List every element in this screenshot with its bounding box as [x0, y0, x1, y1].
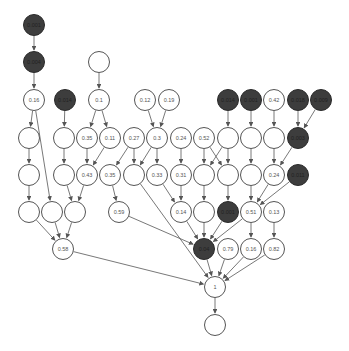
- edge-arrow: [140, 147, 151, 164]
- edge-arrow: [55, 223, 59, 238]
- graph-node: 0.018: [287, 89, 309, 111]
- graph-node: 0.43: [76, 164, 98, 186]
- graph-node: 0.3: [146, 127, 168, 149]
- edge-arrow: [161, 110, 166, 126]
- graph-node: [64, 201, 86, 223]
- graph-node: 0.59: [108, 201, 130, 223]
- graph-node: 0.51: [240, 201, 262, 223]
- edge-arrow: [163, 184, 174, 202]
- graph-node: 0.004: [23, 51, 45, 73]
- graph-node: 0.58: [52, 238, 74, 260]
- graph-node: [217, 127, 239, 149]
- graph-node: 0.001: [240, 89, 262, 111]
- graph-node: 0.014: [54, 89, 76, 111]
- graph-node: 0.24: [170, 127, 192, 149]
- graph-node: 0.27: [123, 127, 145, 149]
- graph-node: 0.42: [263, 89, 285, 111]
- graph-node: 0.35: [99, 164, 121, 186]
- graph-node: [41, 201, 63, 223]
- edge-arrow: [281, 147, 292, 165]
- graph-node: [240, 164, 262, 186]
- graph-node: 0.04: [193, 238, 215, 260]
- graph-node: 0.52: [193, 127, 215, 149]
- graph-diagram: 0.0010.0040.160.0140.10.120.190.0140.001…: [0, 0, 349, 351]
- edge-arrow: [140, 184, 208, 277]
- graph-node: 0.12: [134, 89, 156, 111]
- graph-node: 0.33: [146, 164, 168, 186]
- graph-node: [240, 127, 262, 149]
- edge-arrow: [74, 252, 204, 284]
- graph-node: [204, 314, 226, 336]
- edge-arrow: [31, 111, 33, 126]
- graph-node: 0.14: [170, 201, 192, 223]
- graph-node: 0.001: [23, 14, 45, 36]
- graph-node: [88, 51, 110, 73]
- graph-node: 1: [204, 276, 226, 298]
- edge-arrow: [36, 220, 54, 240]
- edge-arrow: [91, 110, 96, 126]
- edge-arrow: [207, 260, 212, 276]
- edge-arrow: [67, 186, 71, 201]
- edge-arrow: [257, 184, 268, 201]
- graph-node: 0.11: [99, 127, 121, 149]
- edge-arrow: [93, 147, 104, 164]
- edge-arrow: [210, 147, 221, 165]
- graph-node: [53, 127, 75, 149]
- graph-node: 0.35: [76, 127, 98, 149]
- edge-arrow: [117, 147, 128, 165]
- edge-arrow: [304, 109, 315, 127]
- graph-node: 0.24: [263, 164, 285, 186]
- graph-node: [217, 164, 239, 186]
- graph-node: 0.003: [287, 127, 309, 149]
- edge-arrow: [211, 147, 222, 165]
- graph-node: 0.13: [263, 201, 285, 223]
- edge-arrow: [113, 186, 117, 201]
- graph-node: [193, 164, 215, 186]
- graph-node: [18, 164, 40, 186]
- graph-node: 0.16: [23, 89, 45, 111]
- graph-node: 0.82: [263, 238, 285, 260]
- graph-node: 0.31: [170, 164, 192, 186]
- edge-arrow: [219, 259, 225, 275]
- graph-node: 0.79: [217, 238, 239, 260]
- graph-node: [263, 127, 285, 149]
- graph-node: [123, 164, 145, 186]
- graph-node: 0.001: [217, 201, 239, 223]
- edge-arrow: [36, 111, 50, 200]
- edge-arrow: [148, 110, 153, 126]
- edge-arrow: [102, 111, 107, 127]
- edge-arrow: [187, 221, 198, 238]
- graph-node: 0.16: [240, 238, 262, 260]
- graph-node: 0.011: [287, 164, 309, 186]
- edge-arrow: [79, 185, 84, 200]
- edge-arrow: [67, 222, 72, 237]
- graph-node: 0.1: [88, 89, 110, 111]
- graph-node: [18, 127, 40, 149]
- graph-node: 0.19: [158, 89, 180, 111]
- graph-node: [53, 164, 75, 186]
- graph-node: [18, 201, 40, 223]
- graph-node: 0.014: [217, 89, 239, 111]
- graph-node: [193, 201, 215, 223]
- graph-node: 0.009: [310, 89, 332, 111]
